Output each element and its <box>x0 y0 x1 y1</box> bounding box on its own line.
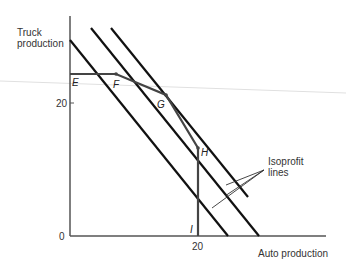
origin-label: 0 <box>59 231 65 242</box>
point-label-h: H <box>201 147 209 158</box>
point-label-g: G <box>157 99 165 110</box>
x-tick-label-20: 20 <box>192 241 204 252</box>
production-frontier <box>70 74 198 236</box>
isoprofit-label-line2: lines <box>268 167 289 178</box>
production-diagram: Truck production 20 0 20 Auto production… <box>0 0 346 268</box>
isoprofit-line-3 <box>111 28 248 197</box>
y-tick-label-20: 20 <box>56 98 68 109</box>
point-label-f: F <box>113 79 120 90</box>
isoprofit-line-1 <box>70 40 228 236</box>
point-f-marker <box>114 72 118 76</box>
point-label-e: E <box>72 77 79 88</box>
point-label-i: I <box>190 224 193 235</box>
scan-artifact-line <box>0 81 346 93</box>
isoprofit-line-2 <box>91 28 259 236</box>
x-axis-label: Auto production <box>258 248 328 259</box>
point-g-marker <box>164 93 168 97</box>
point-h-marker <box>196 146 200 150</box>
isoprofit-label-line1: Isoprofit <box>268 156 304 167</box>
y-axis-label-line1: Truck <box>17 27 43 38</box>
y-axis-label-line2: production <box>17 38 64 49</box>
